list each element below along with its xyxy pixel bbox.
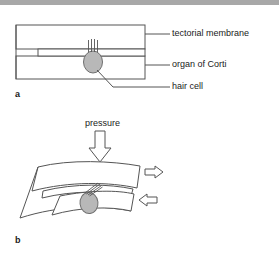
label-pressure: pressure [85,119,120,128]
figure-container: tectorial membrane organ of Corti hair c… [0,0,279,257]
panel-letter-a: a [15,90,20,99]
shear-arrow-lower [139,194,157,206]
label-organ-of-corti: organ of Corti [172,60,227,69]
anatomy-diagram [0,0,279,257]
shear-arrow-upper [145,166,163,178]
pressure-arrow [89,131,111,162]
panel-a-hair-cell-body [84,51,103,73]
panel-b-group [20,131,163,218]
label-hair-cell: hair cell [172,82,203,91]
panel-a-tectorial-membrane [16,25,145,49]
label-tectorial-membrane: tectorial membrane [172,29,249,38]
panel-letter-b: b [15,236,21,245]
panel-a-group [16,25,170,87]
panel-a-organ-of-corti [16,56,145,79]
